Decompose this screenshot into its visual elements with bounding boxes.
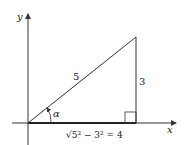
adjacent-label: √5² − 3² = 4	[66, 130, 123, 140]
hypotenuse	[28, 37, 136, 123]
right-angle-marker	[125, 112, 136, 123]
angle-label: α	[53, 108, 60, 119]
opposite-label: 3	[139, 76, 145, 87]
y-axis-label: y	[16, 11, 23, 22]
x-axis-label: x	[167, 124, 173, 135]
angle-arc	[47, 108, 51, 123]
triangle-diagram: y x 5 3 α √5² − 3² = 4	[0, 0, 185, 145]
hypotenuse-label: 5	[73, 71, 79, 82]
